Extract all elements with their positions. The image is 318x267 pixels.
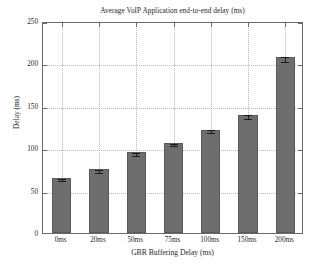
bar: [52, 178, 71, 233]
error-bar-cap: [95, 170, 103, 171]
bar: [238, 115, 257, 233]
x-axis-tick-label: 50ms: [115, 236, 155, 244]
bar: [201, 130, 220, 233]
y-axis-tick-label: 0: [8, 230, 38, 238]
y-axis-tick-labels: 050100150200250: [6, 22, 38, 234]
bar: [127, 152, 146, 233]
x-axis-tick-labels: 0ms20ms50ms75ms100ms150ms200ms: [42, 236, 303, 248]
x-axis-tick-label: 20ms: [78, 236, 118, 244]
error-bar-cap: [244, 115, 252, 116]
x-axis-tick-label: 75ms: [153, 236, 193, 244]
x-axis-tick-label: 150ms: [227, 236, 267, 244]
bar: [89, 169, 108, 233]
y-axis-tick-label: 50: [8, 188, 38, 196]
y-axis-tick-label: 150: [8, 103, 38, 111]
x-axis-label: GBR Buffering Delay (ms): [42, 248, 303, 257]
error-bar-cap: [207, 133, 215, 134]
error-bar-cap: [58, 179, 66, 180]
y-axis-tick-label: 250: [8, 18, 38, 26]
chart-title: Average VoIP Application end-to-end dela…: [42, 6, 303, 15]
bars-layer: [43, 23, 302, 233]
x-axis-tick-label: 0ms: [41, 236, 81, 244]
error-bar-cap: [207, 130, 215, 131]
error-bar-cap: [58, 181, 66, 182]
error-bar-cap: [170, 146, 178, 147]
bar: [276, 57, 295, 233]
y-axis-tick-label: 200: [8, 60, 38, 68]
y-axis-tick-label: 100: [8, 145, 38, 153]
error-bar-cap: [281, 62, 289, 63]
error-bar-cap: [132, 156, 140, 157]
error-bar-cap: [281, 57, 289, 58]
error-bar-cap: [132, 153, 140, 154]
error-bar-cap: [244, 119, 252, 120]
error-bar-cap: [170, 144, 178, 145]
plot-area: [42, 22, 303, 234]
x-axis-tick-label: 100ms: [190, 236, 230, 244]
x-axis-tick-label: 200ms: [264, 236, 304, 244]
chart-figure: Average VoIP Application end-to-end dela…: [0, 0, 318, 267]
error-bar-cap: [95, 173, 103, 174]
bar: [164, 143, 183, 233]
